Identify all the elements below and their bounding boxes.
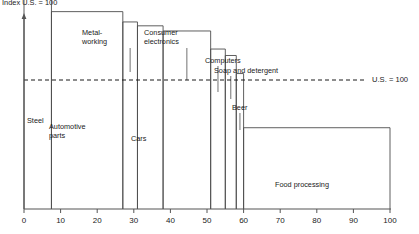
bar-label-soap-and-detergent: Soap and detergent <box>214 66 278 75</box>
x-tick-label: 40 <box>155 216 185 225</box>
bar-label-consumer-electronics: Consumer electronics <box>144 28 179 46</box>
x-tick-label: 70 <box>265 216 295 225</box>
x-tick-label: 30 <box>119 216 149 225</box>
x-tick-label: 100 <box>375 216 405 225</box>
bar <box>244 128 390 209</box>
x-tick-label: 0 <box>9 216 39 225</box>
reference-line-label: U.S. = 100 <box>372 75 408 84</box>
bar <box>24 0 51 209</box>
bar-label-metal-working: Metal- working <box>82 28 107 46</box>
bar-label-food-processing: Food processing <box>275 180 329 189</box>
chart-plot-area <box>0 0 419 234</box>
x-tick-label: 60 <box>229 216 259 225</box>
bar-label-beer: Beer <box>232 103 247 112</box>
x-tick-label: 10 <box>46 216 76 225</box>
bar-series <box>24 0 390 209</box>
chart-container: Index U.S. = 100 SteelAutomotive partsMe… <box>0 0 419 234</box>
bar-label-computers: Computers <box>205 56 241 65</box>
bar <box>137 26 163 209</box>
x-axis-ticks <box>24 209 390 213</box>
x-tick-label: 50 <box>192 216 222 225</box>
bar <box>236 74 243 209</box>
x-tick-label: 80 <box>302 216 332 225</box>
x-tick-label: 90 <box>338 216 368 225</box>
bar-label-automotive-parts: Automotive parts <box>49 122 86 140</box>
y-axis-arrow-icon <box>22 13 27 19</box>
x-tick-label: 20 <box>82 216 112 225</box>
bar-label-cars: Cars <box>131 134 146 143</box>
bar-label-steel: Steel <box>27 116 44 125</box>
